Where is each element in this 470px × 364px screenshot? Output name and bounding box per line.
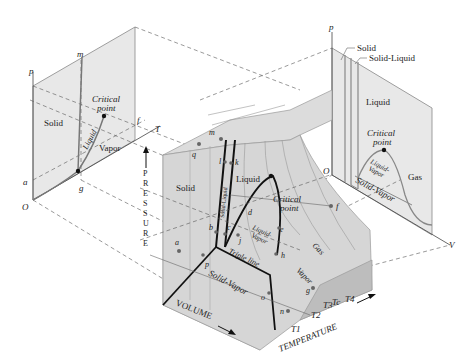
critical-label-left-2: point xyxy=(96,103,116,113)
point-m: m xyxy=(209,128,215,137)
pressure-axis-label: PRESSURE xyxy=(143,169,149,248)
v-axis-label: V xyxy=(449,240,456,250)
point-a: a xyxy=(175,238,179,247)
gas-label-right: Gas xyxy=(408,172,422,182)
point-b: b xyxy=(209,223,213,232)
liquid-region-label: Liquid xyxy=(236,174,260,184)
point-o: o xyxy=(261,293,265,302)
solid-region-label: Solid xyxy=(176,183,196,193)
isotherm-t1: T1 xyxy=(291,324,301,334)
point-n: n xyxy=(280,307,284,316)
point-g-left: g xyxy=(79,183,84,193)
p-axis-label: p xyxy=(28,66,34,76)
vapor-label-left: Vapor xyxy=(99,143,121,153)
point-f-left: f xyxy=(137,115,141,125)
point-q: q xyxy=(192,150,196,159)
point-k: k xyxy=(235,158,239,167)
point-c: c xyxy=(227,223,231,232)
point-m-left: m xyxy=(77,49,84,59)
point-g: g xyxy=(306,286,310,295)
origin-left: O xyxy=(22,202,29,212)
point-e: e xyxy=(280,225,284,234)
pvt-surface-diagram: p m Solid Critical point Liquid Vapor f … xyxy=(0,0,470,364)
point-h: h xyxy=(281,251,285,260)
solid-callout-right: Solid xyxy=(357,43,377,53)
liquid-label-right: Liquid xyxy=(366,97,390,107)
t-axis-label: T xyxy=(155,124,161,134)
p-axis-label-right: p xyxy=(328,22,334,32)
isotherm-t4: T4 xyxy=(345,294,355,304)
isotherm-tc: Tc xyxy=(332,297,340,307)
origin-right: O xyxy=(323,166,330,176)
critical-label-2: point xyxy=(279,203,299,213)
isotherm-t2: T2 xyxy=(311,310,321,320)
solid-liquid-callout-right: Solid-Liquid xyxy=(369,53,416,63)
critical-label-right-2: point xyxy=(372,137,392,147)
solid-label-left: Solid xyxy=(44,118,64,128)
point-a-left: a xyxy=(23,177,28,187)
point-p: p xyxy=(204,260,209,269)
